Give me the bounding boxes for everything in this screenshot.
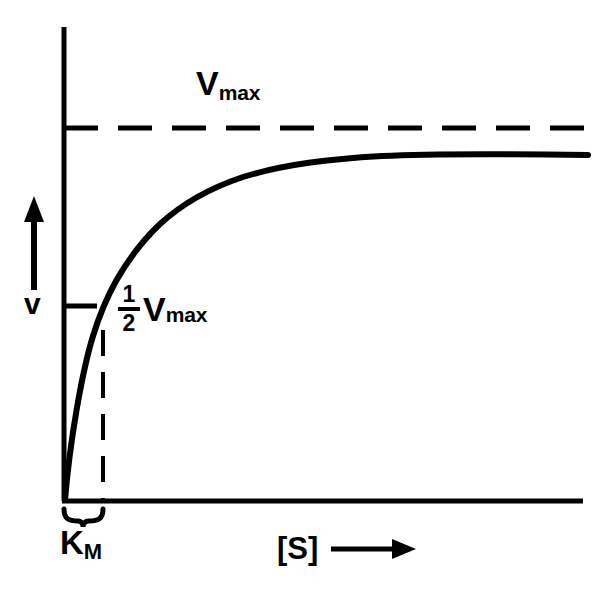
half-vmax-label-base: V bbox=[143, 292, 166, 326]
km-label-subscript: M bbox=[84, 539, 102, 564]
half-vmax-label-subscript: max bbox=[166, 304, 207, 325]
fraction-denominator: 2 bbox=[121, 311, 138, 335]
y-axis-label: v bbox=[24, 289, 41, 319]
km-label-base: K bbox=[60, 524, 84, 561]
vmax-label-base: V bbox=[196, 64, 219, 102]
half-vmax-label: 1 2 Vmax bbox=[118, 283, 207, 335]
x-axis-label: [S] bbox=[277, 533, 318, 564]
fraction-numerator: 1 bbox=[121, 283, 138, 307]
vmax-label: Vmax bbox=[196, 66, 260, 100]
half-fraction: 1 2 bbox=[118, 283, 140, 335]
v-axis-arrow-icon bbox=[24, 196, 44, 290]
michaelis-menten-figure: Vmax 1 2 Vmax v KM [S] bbox=[0, 0, 611, 590]
plot-canvas bbox=[0, 0, 611, 590]
vmax-label-subscript: max bbox=[219, 81, 260, 104]
s-axis-arrow-icon bbox=[331, 539, 416, 559]
km-label: KM bbox=[60, 526, 102, 559]
